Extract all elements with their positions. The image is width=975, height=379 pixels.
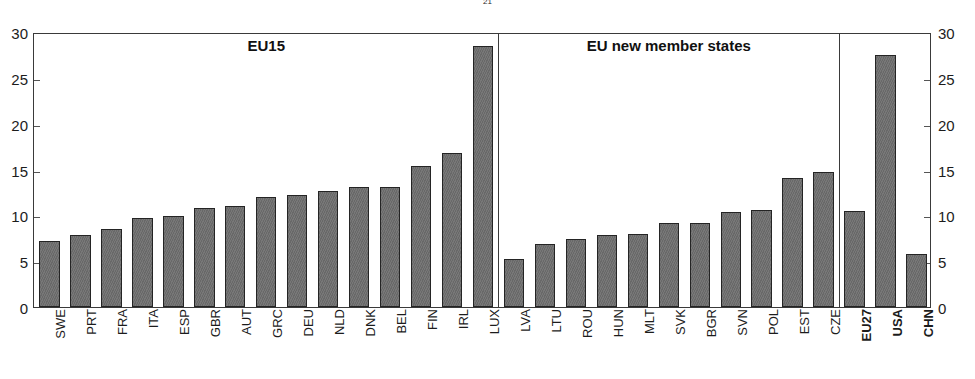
x-tick-label-hun: HUN bbox=[612, 309, 625, 379]
x-tick-label-rou: ROU bbox=[581, 309, 594, 379]
bar-esp bbox=[163, 216, 183, 307]
y-tick-label-left: 0 bbox=[20, 301, 28, 316]
x-tick-label-bgr: BGR bbox=[705, 309, 718, 379]
chart-figure: 21 051015202530 051015202530 EU15EU new … bbox=[0, 0, 975, 379]
bar-deu bbox=[287, 195, 307, 307]
bar-rou bbox=[566, 239, 586, 307]
x-tick-label-usa: USA bbox=[891, 309, 904, 379]
bar-aut bbox=[225, 206, 245, 307]
bar-lva bbox=[504, 259, 524, 307]
bar-mlt bbox=[628, 234, 648, 307]
bar-eu27 bbox=[844, 211, 864, 307]
bar-svn bbox=[721, 212, 741, 307]
x-tick-label-eu27: EU27 bbox=[860, 309, 873, 379]
bar-fra bbox=[101, 229, 121, 307]
x-tick-label-fra: FRA bbox=[116, 309, 129, 379]
y-tick-label-right: 5 bbox=[938, 255, 946, 270]
bar-chn bbox=[906, 254, 926, 307]
y-tick-label-left: 30 bbox=[11, 26, 28, 41]
bar-series bbox=[34, 34, 930, 307]
y-tick-label-right: 0 bbox=[938, 301, 946, 316]
x-tick-label-pol: POL bbox=[767, 309, 780, 379]
bar-irl bbox=[442, 153, 462, 307]
bar-svk bbox=[659, 223, 679, 307]
x-axis-labels: SWEPRTFRAITAESPGBRAUTGRCDEUNLDDNKBELFINI… bbox=[33, 309, 931, 379]
title-subscript-2: 1 bbox=[488, 0, 492, 5]
y-tick-label-left: 20 bbox=[11, 117, 28, 132]
x-tick-label-bel: BEL bbox=[395, 309, 408, 379]
x-tick-label-ltu: LTU bbox=[550, 309, 563, 379]
x-tick-label-est: EST bbox=[798, 309, 811, 379]
y-tick-label-right: 25 bbox=[938, 71, 955, 86]
x-tick-label-nld: NLD bbox=[333, 309, 346, 379]
bar-ita bbox=[132, 218, 152, 307]
y-tick-label-right: 30 bbox=[938, 26, 955, 41]
x-tick-label-dnk: DNK bbox=[364, 309, 377, 379]
plot-area: EU15EU new member states bbox=[33, 33, 931, 308]
clipped-chart-title: 21 bbox=[0, 0, 975, 5]
bar-gbr bbox=[194, 208, 214, 307]
x-tick-label-svk: SVK bbox=[674, 309, 687, 379]
x-tick-label-chn: CHN bbox=[922, 309, 935, 379]
x-tick-label-swe: SWE bbox=[54, 309, 67, 379]
x-tick-label-lux: LUX bbox=[488, 309, 501, 379]
bar-swe bbox=[39, 241, 59, 307]
y-tick-label-right: 10 bbox=[938, 209, 955, 224]
bar-nld bbox=[318, 191, 338, 307]
y-tick-label-right: 15 bbox=[938, 163, 955, 178]
x-tick-label-ita: ITA bbox=[147, 309, 160, 379]
x-tick-label-fin: FIN bbox=[426, 309, 439, 379]
x-tick-label-esp: ESP bbox=[178, 309, 191, 379]
bar-bel bbox=[380, 187, 400, 307]
y-tick-label-left: 5 bbox=[20, 255, 28, 270]
bar-hun bbox=[597, 235, 617, 307]
x-tick-label-grc: GRC bbox=[271, 309, 284, 379]
x-tick-label-lva: LVA bbox=[519, 309, 532, 379]
y-tick-label-left: 25 bbox=[11, 71, 28, 86]
bar-cze bbox=[813, 172, 833, 307]
y-axis-labels-right: 051015202530 bbox=[932, 33, 958, 308]
x-tick-label-prt: PRT bbox=[85, 309, 98, 379]
x-tick-label-mlt: MLT bbox=[643, 309, 656, 379]
bar-ltu bbox=[535, 244, 555, 307]
y-tick-label-right: 20 bbox=[938, 117, 955, 132]
bar-usa bbox=[875, 55, 895, 307]
x-tick-label-cze: CZE bbox=[829, 309, 842, 379]
bar-grc bbox=[256, 197, 276, 307]
y-axis-labels-left: 051015202530 bbox=[2, 33, 28, 308]
x-tick-label-irl: IRL bbox=[457, 309, 470, 379]
bar-est bbox=[782, 178, 802, 307]
y-tick-label-left: 15 bbox=[11, 163, 28, 178]
bar-lux bbox=[473, 46, 493, 307]
y-tick-label-left: 10 bbox=[11, 209, 28, 224]
bar-fin bbox=[411, 166, 431, 307]
x-tick-label-deu: DEU bbox=[302, 309, 315, 379]
x-tick-label-svn: SVN bbox=[736, 309, 749, 379]
bar-dnk bbox=[349, 187, 369, 307]
bar-bgr bbox=[690, 223, 710, 307]
bar-pol bbox=[751, 210, 771, 307]
x-tick-label-gbr: GBR bbox=[209, 309, 222, 379]
bar-prt bbox=[70, 235, 90, 307]
x-tick-label-aut: AUT bbox=[240, 309, 253, 379]
